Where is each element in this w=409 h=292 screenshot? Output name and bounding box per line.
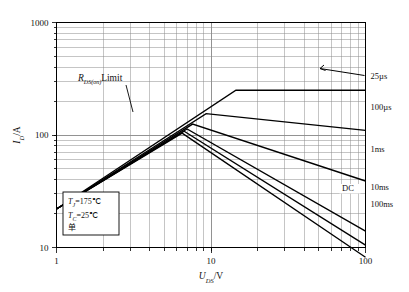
curve-label-dc: DC <box>342 183 354 193</box>
chart-figure: 110100101001000UDS/VID/A25µs100µs1ms10ms… <box>0 0 409 292</box>
curve-label-25µs: 25µs <box>371 71 388 81</box>
soa-chart-svg: 110100101001000UDS/VID/A25µs100µs1ms10ms… <box>0 0 409 292</box>
annotation-box: TJ=175℃TC=25℃单 <box>63 192 119 235</box>
curve-label-100ms: 100ms <box>371 199 394 209</box>
x-tick-label-100: 100 <box>359 256 373 266</box>
y-tick-label-1000: 1000 <box>31 18 50 28</box>
curve-label-1ms: 1ms <box>371 144 385 154</box>
y-tick-label-100: 100 <box>35 130 49 140</box>
annotation-extra: 单 <box>68 222 76 232</box>
x-tick-label-10: 10 <box>207 256 217 266</box>
x-tick-label-1: 1 <box>54 256 59 266</box>
curve-label-10ms: 10ms <box>371 182 389 192</box>
y-tick-label-10: 10 <box>40 243 50 253</box>
curve-label-100µs: 100µs <box>371 102 392 112</box>
